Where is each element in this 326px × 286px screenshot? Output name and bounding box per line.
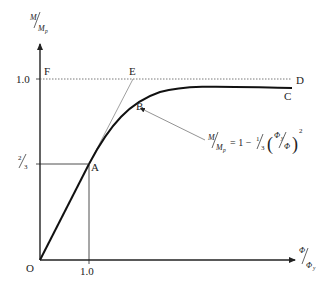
svg-text:Φ: Φ (306, 261, 312, 270)
elastic-line-OA (40, 164, 89, 260)
point-label-E: E (129, 65, 136, 77)
svg-text:p: p (44, 28, 48, 34)
svg-text:2: 2 (299, 127, 303, 135)
svg-text:3: 3 (24, 163, 28, 171)
point-label-C: C (284, 90, 291, 102)
svg-text:y: y (312, 265, 316, 271)
svg-text:Φ: Φ (299, 246, 305, 255)
elastic-plastic-curve (89, 87, 292, 164)
y-axis-label: M M p (29, 12, 48, 34)
svg-text:2: 2 (18, 154, 22, 162)
svg-text:Φ: Φ (274, 131, 280, 140)
point-label-F: F (44, 65, 50, 77)
svg-text:): ) (292, 134, 298, 155)
svg-text:p: p (222, 147, 226, 153)
moment-curvature-diagram: M M p Φ Φ y 1.0 2 3 1.0 O A B C D E F M … (0, 0, 326, 286)
svg-text:(: ( (267, 134, 273, 155)
point-label-A: A (91, 161, 99, 173)
svg-text:= 1 −: = 1 − (230, 137, 252, 148)
y-tick-two-thirds: 2 3 (18, 154, 28, 171)
moment-curvature-formula: M M p = 1 − 1 3 ( Φ y Φ ) 2 (207, 127, 303, 155)
svg-text:Φ: Φ (284, 142, 290, 151)
point-label-O: O (26, 262, 34, 274)
point-label-D: D (296, 74, 304, 86)
y-tick-one: 1.0 (16, 73, 30, 85)
x-axis-label: Φ Φ y (299, 246, 316, 271)
x-tick-one: 1.0 (80, 265, 94, 277)
svg-text:1: 1 (256, 135, 260, 143)
formula-leader (140, 108, 205, 140)
svg-text:3: 3 (261, 144, 265, 152)
point-label-B: B (136, 100, 143, 112)
